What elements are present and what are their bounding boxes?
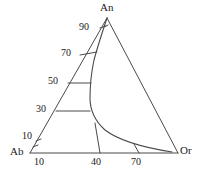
tick-label-left-70: 70 [61, 48, 71, 58]
vertex-label-or: Or [180, 145, 192, 156]
tie-line-70 [80, 52, 97, 55]
tie-line-40-bottom [95, 123, 100, 153]
vertex-label-an: An [100, 2, 113, 13]
tick-mark-10 [36, 139, 41, 141]
tick-label-left-10: 10 [22, 131, 32, 141]
axis-edge-ab-an [30, 18, 107, 153]
tick-label-left-50: 50 [48, 76, 58, 86]
tick-label-bottom-70: 70 [131, 157, 141, 167]
tick-label-bottom-40: 40 [91, 157, 101, 167]
tick-label-left-30: 30 [36, 104, 46, 114]
solvus-curve [90, 18, 172, 152]
ternary-diagram-canvas [0, 0, 205, 187]
axis-edge-an-or [107, 18, 178, 153]
tick-label-bottom-10: 10 [34, 157, 44, 167]
ternary-phase-diagram-figure: An Ab Or 90 70 50 30 10 10 40 70 [0, 0, 205, 187]
tick-label-left-90: 90 [79, 22, 89, 32]
vertex-label-ab: Ab [10, 146, 23, 157]
